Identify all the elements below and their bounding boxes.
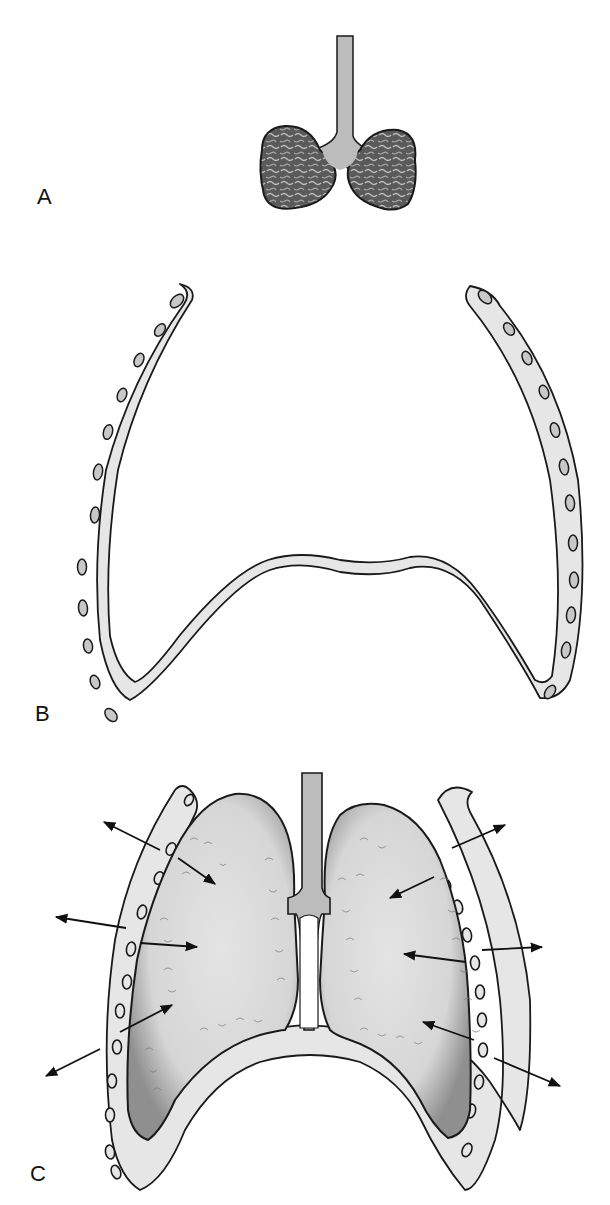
lung-chest-wall-diagram: A B C	[0, 0, 610, 1205]
arrow-out-mid-left	[56, 917, 126, 928]
panel-a-collapsed-lungs	[260, 36, 415, 210]
arrow-out-lower-left	[46, 1049, 100, 1076]
right-lung-collapsed	[348, 130, 416, 210]
panel-c-lungs-in-thorax	[46, 773, 560, 1190]
left-chest-wall	[97, 284, 582, 700]
panel-b-chest-wall	[78, 284, 583, 724]
right-lung-inflated	[320, 804, 471, 1138]
left-lung-collapsed	[260, 126, 335, 209]
